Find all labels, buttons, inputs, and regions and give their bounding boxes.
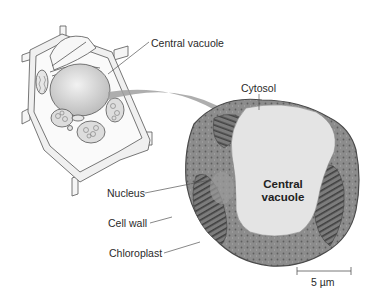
label-central-vacuole-micrograph: Central vacuole bbox=[248, 178, 318, 204]
label-cell-wall: Cell wall bbox=[108, 217, 147, 229]
scale-bar-label: 5 µm bbox=[311, 276, 335, 288]
label-cytosol: Cytosol bbox=[241, 82, 276, 94]
cell-wall-leader-line bbox=[150, 217, 172, 223]
label-central-vacuole-illustration: Central vacuole bbox=[151, 37, 224, 49]
plant-cell-illustration bbox=[22, 26, 152, 196]
scale-bar bbox=[297, 267, 351, 275]
label-nucleus: Nucleus bbox=[107, 187, 145, 199]
label-central-vacuole-line2: vacuole bbox=[248, 191, 318, 204]
chloroplast-leader-line bbox=[164, 242, 200, 253]
label-central-vacuole-line1: Central bbox=[248, 178, 318, 191]
label-chloroplast: Chloroplast bbox=[109, 247, 162, 259]
